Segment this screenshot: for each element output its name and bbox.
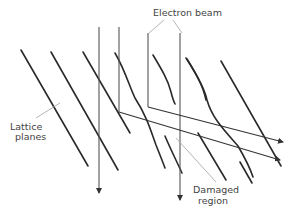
damaged-region-label-1: Damaged — [193, 185, 239, 195]
lattice-plane-6-upper — [186, 58, 206, 100]
leader-lines — [36, 20, 216, 182]
diffracted-beam-1 — [119, 112, 280, 160]
electron-beams — [99, 27, 180, 200]
lattice-plane-right-lower — [240, 162, 252, 183]
lattice-plane-5-upper — [153, 55, 175, 104]
lattice-plane-2 — [51, 52, 118, 170]
leader-electron-beam-left — [149, 20, 164, 33]
diffracted-beam-2 — [148, 107, 283, 142]
electron-beam-label: Electron beam — [153, 8, 222, 18]
lattice-plane-8 — [221, 61, 281, 166]
lattice-plane-7-bent — [187, 59, 253, 177]
leader-damaged-region — [176, 138, 216, 182]
damaged-region-label-2: region — [198, 196, 228, 206]
lattice-planes — [21, 50, 281, 183]
leader-electron-beam-right — [173, 20, 182, 33]
lattice-planes-label-2: planes — [15, 132, 46, 142]
lattice-plane-1 — [21, 50, 88, 166]
diffraction-diagram — [0, 0, 290, 210]
lattice-plane-4-bent — [115, 53, 165, 168]
